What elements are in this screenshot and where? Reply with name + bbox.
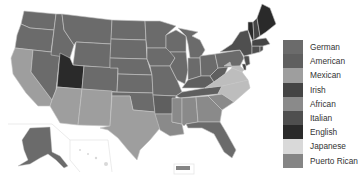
- legend-swatch: [283, 83, 303, 97]
- state-kansas: [117, 74, 153, 93]
- legend-swatch: [283, 54, 303, 68]
- state-new-mexico: [78, 89, 112, 126]
- legend-item-japanese: Japanese: [283, 139, 363, 153]
- state-arizona: [50, 87, 82, 125]
- legend: German American Mexican Irish African It…: [283, 40, 363, 168]
- legend-label: Irish: [310, 85, 326, 95]
- legend-swatch: [283, 68, 303, 82]
- state-south-dakota: [110, 39, 147, 59]
- legend-label: Mexican: [310, 70, 341, 80]
- legend-swatch: [283, 139, 303, 153]
- legend-label: Japanese: [310, 141, 346, 151]
- state-alabama: [182, 97, 198, 126]
- legend-item-african: African: [283, 97, 363, 111]
- legend-item-english: English: [283, 125, 363, 139]
- legend-swatch: [283, 97, 303, 111]
- legend-swatch: [283, 154, 303, 168]
- legend-label: African: [310, 99, 336, 109]
- state-north-dakota: [111, 20, 146, 40]
- legend-item-puerto-rican: Puerto Rican: [283, 154, 363, 168]
- state-alaska: [18, 127, 68, 168]
- legend-item-irish: Irish: [283, 83, 363, 97]
- state-maine: [257, 4, 276, 36]
- state-connecticut: [252, 46, 260, 54]
- legend-label: Italian: [310, 113, 332, 123]
- legend-label: Puerto Rican: [310, 156, 358, 166]
- state-hawaii: [79, 149, 108, 166]
- legend-item-italian: Italian: [283, 111, 363, 125]
- legend-swatch: [283, 125, 303, 139]
- state-colorado: [82, 66, 118, 92]
- territory-puerto-rico: [176, 166, 190, 170]
- legend-item-american: American: [283, 54, 363, 68]
- state-florida: [186, 122, 236, 158]
- legend-label: American: [310, 56, 345, 66]
- legend-item-mexican: Mexican: [283, 68, 363, 82]
- legend-swatch: [283, 111, 303, 125]
- state-mississippi: [172, 98, 182, 124]
- legend-swatch: [283, 40, 303, 54]
- state-wyoming: [73, 42, 111, 68]
- legend-label: German: [310, 42, 340, 52]
- legend-item-german: German: [283, 40, 363, 54]
- state-rhode-island: [260, 46, 263, 52]
- legend-label: English: [310, 127, 337, 137]
